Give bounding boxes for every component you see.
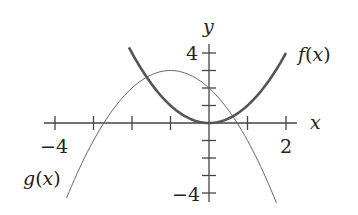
y-max-label: 4: [186, 42, 198, 64]
function-graph: y x −4 2 4 −4 f(x) g(x): [0, 0, 358, 215]
g-curve-label: g(x): [23, 167, 61, 189]
f-curve-label: f(x): [296, 43, 331, 65]
y-min-label: −4: [172, 183, 200, 205]
x-min-label: −4: [40, 135, 68, 157]
f-curve: [129, 47, 286, 123]
axes: [44, 44, 297, 202]
x-max-label: 2: [280, 135, 292, 157]
y-axis-label: y: [202, 15, 214, 37]
x-axis-label: x: [310, 111, 321, 133]
